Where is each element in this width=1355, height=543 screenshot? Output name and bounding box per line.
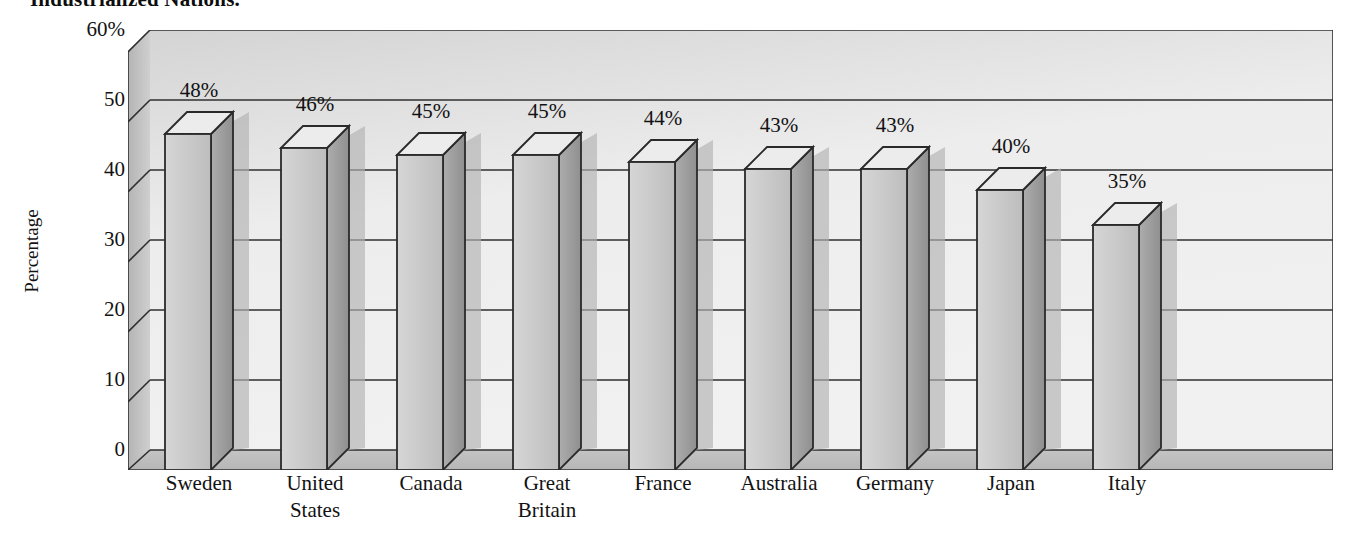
bar-value-label: 44% [618,108,708,129]
x-axis-category-line: United [255,470,375,497]
y-axis-tick: 20 [55,299,125,320]
y-axis-tick-labels: 60%50403020100 [55,0,125,543]
chart-page: Industrialized Nations. Percentage 60%50… [0,0,1355,543]
x-axis-category-label: Japan [951,470,1071,497]
bar-front-face [281,148,327,470]
bar-front-face [629,162,675,470]
bar-column[interactable] [513,133,597,470]
x-axis-category-line: Great [487,470,607,497]
bar-front-face [1093,225,1139,470]
bar-value-label: 43% [734,115,824,136]
bar-value-label: 40% [966,136,1056,157]
x-axis-category-line: Germany [835,470,955,497]
bar-column[interactable] [977,168,1061,470]
bar-front-face [165,134,211,470]
bar-column[interactable] [397,133,481,470]
y-axis-tick: 10 [55,369,125,390]
bar-value-label: 45% [502,101,592,122]
bar-front-face [397,155,443,470]
bar-side-face [211,112,233,470]
bar-column[interactable] [281,126,365,470]
bar-front-face [513,155,559,470]
bar-side-face [675,140,697,470]
x-axis-category-label: Canada [371,470,491,497]
bar-value-label: 43% [850,115,940,136]
x-axis-category-line: Italy [1067,470,1187,497]
x-axis-category-label: Australia [719,470,839,497]
bar-column[interactable] [165,112,249,470]
bar-side-face [327,126,349,470]
bar-column[interactable] [745,147,829,470]
bar-side-face [907,147,929,470]
bar-side-face [1023,168,1045,470]
y-axis-tick: 0 [55,439,125,460]
bar-value-label: 48% [154,80,244,101]
x-axis-category-line: States [255,497,375,524]
bar-side-face [559,133,581,470]
bar-column[interactable] [861,147,945,470]
y-axis-tick: 60% [55,19,125,40]
x-axis-category-label: Italy [1067,470,1187,497]
bar-side-face [1139,203,1161,470]
bar-side-face [443,133,465,470]
y-axis-tick: 40 [55,159,125,180]
bar-front-face [861,169,907,470]
bar-front-face [977,190,1023,470]
x-axis-category-label: France [603,470,723,497]
x-axis-category-labels: SwedenUnitedStatesCanadaGreatBritainFran… [0,470,1355,543]
y-axis-tick: 50 [55,89,125,110]
x-axis-category-line: Canada [371,470,491,497]
y-axis-tick: 30 [55,229,125,250]
x-axis-category-line: France [603,470,723,497]
bar-column[interactable] [629,140,713,470]
x-axis-category-line: Japan [951,470,1071,497]
x-axis-category-line: Britain [487,497,607,524]
x-axis-category-label: GreatBritain [487,470,607,524]
x-axis-category-line: Sweden [139,470,259,497]
x-axis-category-label: Germany [835,470,955,497]
y-axis-title: Percentage [21,181,43,321]
bar-front-face [745,169,791,470]
bar-value-label: 35% [1082,171,1172,192]
x-axis-category-label: UnitedStates [255,470,375,524]
bar-side-face [791,147,813,470]
bar-value-label: 45% [386,101,476,122]
bar-column[interactable] [1093,203,1177,470]
x-axis-category-line: Australia [719,470,839,497]
bar-value-label: 46% [270,94,360,115]
x-axis-category-label: Sweden [139,470,259,497]
